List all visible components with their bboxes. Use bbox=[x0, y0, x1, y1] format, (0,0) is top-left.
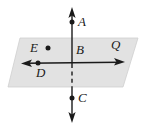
point-label-b: B bbox=[76, 43, 84, 56]
point-label-a: A bbox=[78, 15, 86, 28]
figure-canvas bbox=[0, 0, 144, 131]
point-label-d: D bbox=[36, 66, 45, 79]
point-label-c: C bbox=[78, 91, 87, 104]
point-label-e: E bbox=[30, 41, 38, 54]
point-dot-c bbox=[70, 96, 75, 101]
plane-label-q: Q bbox=[111, 38, 120, 51]
point-dot-a bbox=[70, 20, 75, 25]
point-dot-e bbox=[46, 46, 51, 51]
geometry-figure: A B C D E Q bbox=[0, 0, 144, 131]
